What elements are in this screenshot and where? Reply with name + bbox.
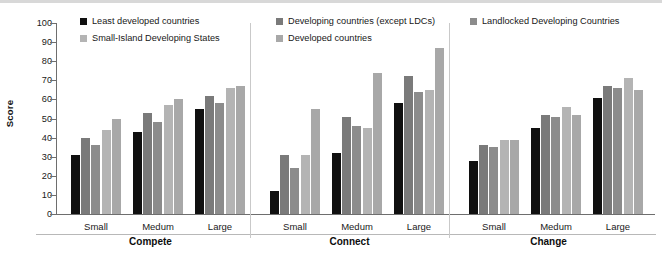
group-separator bbox=[449, 23, 450, 238]
bar-chart: Least developed countries Developing cou… bbox=[0, 0, 662, 259]
bar-cluster bbox=[133, 23, 183, 214]
y-axis-tick-label: 90 bbox=[18, 37, 52, 47]
x-axis-size-label: Small bbox=[84, 221, 108, 232]
bar bbox=[215, 103, 224, 214]
bar-cluster bbox=[332, 23, 382, 214]
bar bbox=[551, 117, 560, 214]
x-axis-size-label: Large bbox=[208, 221, 232, 232]
bar bbox=[112, 119, 121, 215]
bar bbox=[352, 126, 361, 214]
bar bbox=[479, 145, 488, 214]
bar bbox=[363, 128, 372, 214]
y-axis-tick-label: 20 bbox=[18, 171, 52, 181]
bar bbox=[195, 109, 204, 214]
y-axis-tick-label: 10 bbox=[18, 190, 52, 200]
bar bbox=[541, 115, 550, 214]
bar bbox=[164, 105, 173, 214]
bar bbox=[71, 155, 80, 214]
y-axis-tick-mark bbox=[50, 214, 56, 215]
y-axis-tick-mark bbox=[50, 195, 56, 196]
bar bbox=[500, 140, 509, 214]
bar bbox=[394, 103, 403, 214]
y-axis-tick-mark bbox=[50, 99, 56, 100]
bar bbox=[143, 113, 152, 214]
bar bbox=[290, 168, 299, 214]
bar-cluster bbox=[394, 23, 444, 214]
bar bbox=[236, 86, 245, 214]
bar bbox=[342, 117, 351, 214]
bar bbox=[81, 138, 90, 214]
y-axis-tick-mark bbox=[50, 138, 56, 139]
bar bbox=[572, 115, 581, 214]
y-axis-tick-mark bbox=[50, 157, 56, 158]
x-axis-group-label: Compete bbox=[129, 236, 172, 247]
x-axis-size-label: Medum bbox=[142, 221, 174, 232]
bar bbox=[634, 90, 643, 214]
bar bbox=[531, 128, 540, 214]
bar bbox=[435, 48, 444, 214]
y-axis-tick-label: 60 bbox=[18, 94, 52, 104]
bar bbox=[205, 96, 214, 214]
bar-cluster bbox=[593, 23, 643, 214]
y-axis-tick-label: 30 bbox=[18, 152, 52, 162]
x-axis-size-label: Small bbox=[283, 221, 307, 232]
bar bbox=[593, 98, 602, 215]
x-axis-size-label: Large bbox=[606, 221, 630, 232]
bottom-divider bbox=[36, 234, 656, 235]
y-axis-tick-mark bbox=[50, 80, 56, 81]
bar bbox=[425, 90, 434, 214]
y-axis-tick-label: 50 bbox=[18, 114, 52, 124]
bar bbox=[301, 155, 310, 214]
bar-cluster bbox=[469, 23, 519, 214]
bar bbox=[613, 88, 622, 214]
x-axis-size-label: Small bbox=[482, 221, 506, 232]
bar bbox=[102, 130, 111, 214]
bar bbox=[510, 140, 519, 214]
bar-cluster bbox=[531, 23, 581, 214]
bar bbox=[489, 147, 498, 214]
bar bbox=[404, 76, 413, 214]
group-separator bbox=[250, 23, 251, 238]
y-axis-tick-label: 70 bbox=[18, 75, 52, 85]
bar bbox=[174, 99, 183, 214]
y-axis-tick-mark bbox=[50, 119, 56, 120]
bar bbox=[414, 92, 423, 214]
bar-cluster bbox=[71, 23, 121, 214]
y-axis-tick-label: 100 bbox=[18, 18, 52, 28]
bar bbox=[280, 155, 289, 214]
bar bbox=[562, 107, 571, 214]
y-axis-tick-mark bbox=[50, 61, 56, 62]
y-axis-tick-mark bbox=[50, 42, 56, 43]
y-axis-tick-label: 80 bbox=[18, 56, 52, 66]
bar bbox=[270, 191, 279, 214]
bar-cluster bbox=[195, 23, 245, 214]
bar bbox=[133, 132, 142, 214]
y-axis-tick-mark bbox=[50, 176, 56, 177]
bar bbox=[603, 86, 612, 214]
x-axis-line bbox=[56, 214, 655, 215]
x-axis-size-label: Medum bbox=[341, 221, 373, 232]
y-axis-tick-label: 40 bbox=[18, 133, 52, 143]
bar bbox=[469, 161, 478, 214]
bar bbox=[91, 145, 100, 214]
bar bbox=[226, 88, 235, 214]
y-axis-tick-mark bbox=[50, 23, 56, 24]
bar bbox=[332, 153, 341, 214]
x-axis-size-label: Large bbox=[407, 221, 431, 232]
y-axis-tick-labels: 0102030405060708090100 bbox=[18, 0, 52, 259]
x-axis-group-label: Change bbox=[530, 236, 567, 247]
bar-cluster bbox=[270, 23, 320, 214]
y-axis-title: Score bbox=[4, 100, 15, 127]
x-axis-size-label: Medum bbox=[540, 221, 572, 232]
top-band-divider bbox=[0, 0, 662, 3]
bar bbox=[311, 109, 320, 214]
plot-area bbox=[57, 23, 655, 214]
bar bbox=[624, 78, 633, 214]
bar bbox=[153, 122, 162, 214]
bar bbox=[373, 73, 382, 214]
y-axis-tick-label: 0 bbox=[18, 209, 52, 219]
x-axis-group-label: Connect bbox=[330, 236, 370, 247]
